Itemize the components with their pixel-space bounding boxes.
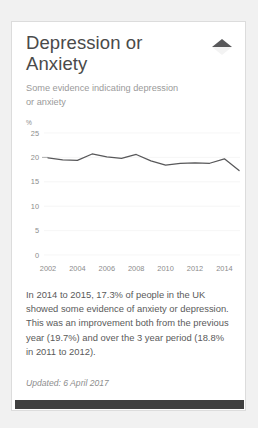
collapse-triangle-icon[interactable] bbox=[208, 36, 236, 58]
card-subtitle: Some evidence indicating depression or a… bbox=[26, 82, 186, 109]
x-tick-2008: 2008 bbox=[128, 264, 144, 273]
x-tick-2004: 2004 bbox=[69, 264, 85, 273]
card-body-text: In 2014 to 2015, 17.3% of people in the … bbox=[26, 288, 231, 359]
updated-timestamp: Updated: 6 April 2017 bbox=[26, 377, 231, 389]
x-tick-2012: 2012 bbox=[187, 264, 203, 273]
y-axis-unit: % bbox=[26, 119, 32, 126]
x-tick-2006: 2006 bbox=[99, 264, 115, 273]
page-root: Depression or Anxiety Some evidence indi… bbox=[0, 0, 258, 428]
card-inner: Depression or Anxiety Some evidence indi… bbox=[12, 22, 245, 410]
card-header: Depression or Anxiety Some evidence indi… bbox=[26, 32, 235, 109]
y-tick-20: 20 bbox=[31, 153, 39, 162]
y-tick-5: 5 bbox=[35, 226, 39, 235]
line-chart: % 25 20 15 10 5 0 2002 2004 2006 2008 20… bbox=[12, 118, 246, 283]
y-tick-0: 0 bbox=[35, 251, 39, 260]
x-tick-2002: 2002 bbox=[40, 264, 56, 273]
page-title: Depression or Anxiety bbox=[26, 32, 186, 74]
y-tick-10: 10 bbox=[31, 202, 39, 211]
y-tick-15: 15 bbox=[31, 177, 39, 186]
y-tick-25: 25 bbox=[31, 129, 39, 138]
series-line-depression-anxiety bbox=[48, 154, 239, 171]
x-tick-2014: 2014 bbox=[216, 264, 232, 273]
indicator-card: Depression or Anxiety Some evidence indi… bbox=[11, 21, 246, 411]
card-bottom-bar bbox=[15, 400, 244, 409]
x-tick-2010: 2010 bbox=[157, 264, 173, 273]
